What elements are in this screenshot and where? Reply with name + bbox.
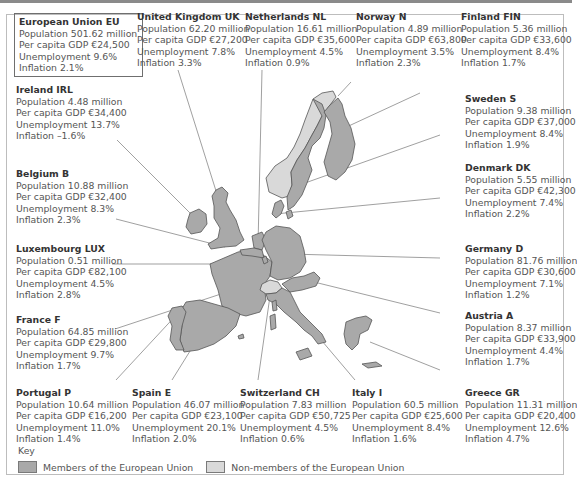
country-population: Population 5.55 million (465, 174, 576, 186)
label-sweden: Sweden S Population 9.38 million Per cap… (465, 93, 576, 151)
country-name: Switzerland CH (240, 387, 351, 399)
country-population: Population 46.07 million (132, 399, 244, 411)
country-gdp: Per capita GDP €23,100 (132, 410, 244, 422)
country-gdp: Per capita GDP €33,600 (461, 34, 572, 46)
country-inflation: Inflation 2.8% (16, 289, 127, 301)
country-gdp: Per capita GDP €42,300 (465, 185, 576, 197)
label-belgium: Belgium B Population 10.88 million Per c… (16, 168, 128, 226)
country-population: Population 4.89 million (356, 23, 467, 35)
country-gdp: Per capita GDP €35,600 (245, 34, 357, 46)
country-unemployment: Unemployment 13.7% (16, 119, 127, 131)
country-population: Population 62.20 million (137, 23, 249, 35)
country-gdp: Per capita GDP €16,200 (16, 410, 128, 422)
country-unemployment: Unemployment 8.4% (461, 46, 572, 58)
key-title: Key (18, 445, 35, 456)
country-gdp: Per capita GDP €37,000 (465, 116, 576, 128)
country-unemployment: Unemployment 9.7% (16, 349, 128, 361)
country-name: Netherlands NL (245, 11, 357, 23)
country-inflation: Inflation 2.2% (465, 208, 576, 220)
country-unemployment: Unemployment 4.5% (16, 278, 127, 290)
country-unemployment: Unemployment 8.3% (16, 203, 128, 215)
label-netherlands: Netherlands NL Population 16.61 million … (245, 11, 357, 69)
country-unemployment: Unemployment 8.4% (465, 128, 576, 140)
label-italy: Italy I Population 60.5 million Per capi… (352, 387, 463, 445)
country-unemployment: Unemployment 7.1% (465, 278, 577, 290)
country-inflation: Inflation 3.3% (137, 57, 249, 69)
country-gdp: Per capita GDP €50,725 (240, 410, 351, 422)
key-member-label: Members of the European Union (43, 462, 193, 473)
country-inflation: Inflation 2.3% (356, 57, 467, 69)
country-inflation: Inflation 1.2% (465, 289, 577, 301)
island-balearic (238, 334, 244, 339)
country-inflation: Inflation 1.6% (352, 433, 463, 445)
eu-unemployment: Unemployment 9.6% (19, 51, 137, 63)
country-name: Norway N (356, 11, 467, 23)
label-uk: United Kingdom UK Population 62.20 milli… (137, 11, 249, 69)
label-germany: Germany D Population 81.76 million Per c… (465, 243, 577, 301)
country-inflation: Inflation 1.7% (465, 356, 576, 368)
country-population: Population 10.64 million (16, 399, 128, 411)
label-luxembourg: Luxembourg LUX Population 0.51 million P… (16, 243, 127, 301)
label-ireland: Ireland IRL Population 4.48 million Per … (16, 84, 127, 142)
country-name: Belgium B (16, 168, 128, 180)
country-gdp: Per capita GDP €32,400 (16, 191, 128, 203)
label-portugal: Portugal P Population 10.64 million Per … (16, 387, 128, 445)
country-population: Population 81.76 million (465, 255, 577, 267)
country-gdp: Per capita GDP €30,600 (465, 266, 577, 278)
country-gdp: Per capita GDP €20,400 (465, 410, 577, 422)
country-population: Population 4.48 million (16, 96, 127, 108)
country-name: Sweden S (465, 93, 576, 105)
country-uk (208, 187, 244, 249)
country-ireland (186, 209, 207, 234)
country-name: Austria A (465, 310, 576, 322)
country-name: Greece GR (465, 387, 577, 399)
country-population: Population 11.31 million (465, 399, 577, 411)
country-unemployment: Unemployment 4.5% (240, 422, 351, 434)
country-greece (344, 316, 372, 350)
country-name: Italy I (352, 387, 463, 399)
country-population: Population 9.38 million (465, 105, 576, 117)
country-population: Population 64.85 million (16, 326, 128, 338)
country-name: Portugal P (16, 387, 128, 399)
label-denmark: Denmark DK Population 5.55 million Per c… (465, 162, 576, 220)
country-inflation: Inflation 0.6% (240, 433, 351, 445)
country-gdp: Per capita GDP €63,800 (356, 34, 467, 46)
country-population: Population 0.51 million (16, 255, 127, 267)
country-finland (324, 98, 355, 180)
country-denmark (272, 200, 284, 218)
country-population: Population 10.88 million (16, 180, 128, 192)
eu-name: European Union EU (19, 16, 137, 28)
key-nonmember-label: Non-members of the European Union (231, 462, 404, 473)
country-population: Population 7.83 million (240, 399, 351, 411)
country-unemployment: Unemployment 4.5% (245, 46, 357, 58)
label-spain: Spain E Population 46.07 million Per cap… (132, 387, 244, 445)
country-name: United Kingdom UK (137, 11, 249, 23)
leader-lines (112, 70, 440, 380)
country-inflation: Inflation 1.7% (461, 57, 572, 69)
country-inflation: Inflation 2.0% (132, 433, 244, 445)
country-population: Population 5.36 million (461, 23, 572, 35)
eu-gdp: Per capita GDP €24,500 (19, 39, 137, 51)
country-inflation: Inflation 1.7% (16, 360, 128, 372)
country-gdp: Per capita GDP €34,400 (16, 107, 127, 119)
eu-inflation: Inflation 2.1% (19, 62, 137, 74)
country-unemployment: Unemployment 12.6% (465, 422, 577, 434)
country-inflation: Inflation 2.3% (16, 214, 128, 226)
country-name: Finland FIN (461, 11, 572, 23)
country-inflation: Inflation –1.6% (16, 130, 127, 142)
key-legend: Members of the European Union Non-member… (18, 461, 404, 473)
country-unemployment: Unemployment 4.4% (465, 345, 576, 357)
country-gdp: Per capita GDP €27,200 (137, 34, 249, 46)
country-gdp: Per capita GDP €25,600 (352, 410, 463, 422)
label-norway: Norway N Population 4.89 million Per cap… (356, 11, 467, 69)
country-population: Population 16.61 million (245, 23, 357, 35)
member-swatch (18, 461, 37, 473)
country-denmark-island (286, 210, 293, 219)
country-name: Denmark DK (465, 162, 576, 174)
country-population: Population 60.5 million (352, 399, 463, 411)
label-greece: Greece GR Population 11.31 million Per c… (465, 387, 577, 445)
country-gdp: Per capita GDP €29,800 (16, 337, 128, 349)
country-inflation: Inflation 1.9% (465, 139, 576, 151)
nonmember-swatch (206, 461, 225, 473)
eu-summary: European Union EU Population 501.62 mill… (14, 13, 143, 77)
